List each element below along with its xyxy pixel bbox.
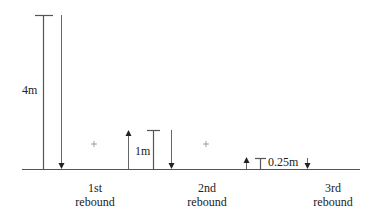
rebound-label-2-line1: 2nd <box>198 181 216 195</box>
rebound-label-1-line1: 1st <box>88 181 103 195</box>
arrow-head-down-icon <box>169 163 175 169</box>
rebound-label-1-line2: rebound <box>75 195 114 209</box>
rebound-label-3-line2: rebound <box>313 195 352 209</box>
rebound-label-1: 1st rebound <box>75 181 114 209</box>
arrow-head-up-icon <box>244 157 250 163</box>
height-label-1m: 1m <box>135 144 151 158</box>
rebound-label-2: 2nd rebound <box>187 181 226 209</box>
plus-mark-2 <box>203 141 209 147</box>
drop-1m: 1m <box>126 130 175 169</box>
rebound-label-3-line1: 3rd <box>325 181 341 195</box>
height-label-0-25m: 0.25m <box>268 155 299 169</box>
bounce-diagram: 4m 1m 0.25m <box>0 0 376 224</box>
height-label-4m: 4m <box>22 83 38 97</box>
rebound-label-3: 3rd rebound <box>313 181 352 209</box>
drop-0-25m: 0.25m <box>244 155 311 169</box>
arrow-head-up-icon <box>126 130 132 136</box>
rebound-label-2-line2: rebound <box>187 195 226 209</box>
arrow-head-down-icon <box>305 163 311 169</box>
diagram-canvas: 4m 1m 0.25m <box>0 0 376 224</box>
plus-mark-1 <box>91 141 97 147</box>
arrow-head-down-icon <box>59 163 65 169</box>
drop-4m: 4m <box>22 15 65 169</box>
